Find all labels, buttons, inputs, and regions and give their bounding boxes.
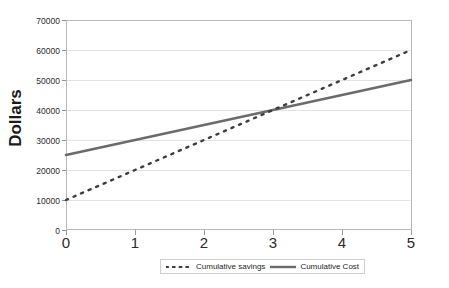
x-tick-label: 4 [322, 234, 362, 251]
x-tick-label: 1 [115, 234, 155, 251]
line-chart: Dollars 70000 60000 50000 40000 30000 20… [0, 0, 449, 288]
legend-label: Cumulative Cost [300, 262, 359, 271]
y-tick-label: 30000 [8, 136, 60, 146]
legend-swatch-dotted-icon [166, 263, 192, 271]
y-tick-label: 60000 [8, 46, 60, 56]
x-tick-label: 3 [253, 234, 293, 251]
legend-swatch-solid-icon [270, 263, 296, 271]
y-tick-label: 70000 [8, 16, 60, 26]
legend-item-cumulative-savings[interactable]: Cumulative savings [166, 262, 265, 271]
x-tick-label: 5 [391, 234, 431, 251]
x-tick-label: 0 [46, 234, 86, 251]
legend-label: Cumulative savings [196, 262, 265, 271]
series-cumulative-savings [66, 50, 411, 200]
y-tick-label: 20000 [8, 166, 60, 176]
legend-item-cumulative-cost[interactable]: Cumulative Cost [270, 262, 359, 271]
y-tick-label: 50000 [8, 76, 60, 86]
x-tick-label: 2 [184, 234, 224, 251]
chart-legend: Cumulative savings Cumulative Cost [160, 259, 365, 274]
series-cumulative-cost [66, 80, 411, 155]
y-tick-label: 40000 [8, 106, 60, 116]
y-tick-label: 10000 [8, 196, 60, 206]
series-layer [66, 20, 412, 230]
